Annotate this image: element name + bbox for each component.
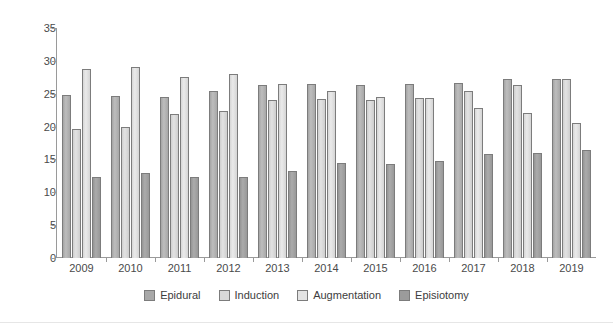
bar-set <box>160 28 199 258</box>
x-axis-labels: 2009201020112012201320142015201620172018… <box>57 262 596 274</box>
bar[interactable] <box>131 67 140 258</box>
bar[interactable] <box>533 153 542 258</box>
bar[interactable] <box>337 163 346 258</box>
bar-set <box>405 28 444 258</box>
bar[interactable] <box>454 83 463 258</box>
bar-set <box>454 28 493 258</box>
bar[interactable] <box>582 150 591 258</box>
bar-group <box>57 28 106 258</box>
bar-group <box>400 28 449 258</box>
x-axis-label: 2018 <box>498 262 547 274</box>
bar[interactable] <box>415 98 424 258</box>
bar[interactable] <box>425 98 434 258</box>
bar[interactable] <box>435 161 444 258</box>
legend-label: Induction <box>235 289 280 301</box>
y-axis-tick-mark <box>52 94 56 95</box>
bar[interactable] <box>229 74 238 258</box>
y-axis-tick-mark <box>52 159 56 160</box>
x-axis-label: 2015 <box>351 262 400 274</box>
x-axis-label: 2009 <box>57 262 106 274</box>
bar[interactable] <box>523 113 532 258</box>
bar-chart: 05101520253035 2009201020112012201320142… <box>0 0 613 333</box>
legend-label: Episiotomy <box>415 289 469 301</box>
bar[interactable] <box>209 91 218 258</box>
bar[interactable] <box>111 96 120 258</box>
x-axis-label: 2017 <box>449 262 498 274</box>
bar[interactable] <box>160 97 169 258</box>
bar[interactable] <box>219 111 228 258</box>
bar-set <box>258 28 297 258</box>
bar[interactable] <box>258 85 267 258</box>
bar-set <box>111 28 150 258</box>
x-axis-label: 2010 <box>106 262 155 274</box>
bar-group <box>449 28 498 258</box>
bar[interactable] <box>62 95 71 258</box>
bar-set <box>552 28 591 258</box>
bar[interactable] <box>180 77 189 258</box>
bar-group <box>253 28 302 258</box>
x-axis-label: 2014 <box>302 262 351 274</box>
bar[interactable] <box>239 177 248 258</box>
bar-group <box>204 28 253 258</box>
bar[interactable] <box>376 97 385 258</box>
bar[interactable] <box>121 127 130 258</box>
bar[interactable] <box>288 171 297 258</box>
y-axis-tick-mark <box>52 127 56 128</box>
bar[interactable] <box>464 91 473 258</box>
bar[interactable] <box>405 84 414 258</box>
bar-group <box>302 28 351 258</box>
bar[interactable] <box>82 69 91 258</box>
legend-item[interactable]: Epidural <box>144 289 200 301</box>
y-axis-tick-mark <box>52 192 56 193</box>
y-axis-tick-mark <box>52 28 56 29</box>
bar[interactable] <box>484 154 493 258</box>
y-axis-tick-mark <box>52 61 56 62</box>
bar[interactable] <box>141 173 150 258</box>
x-axis-label: 2013 <box>253 262 302 274</box>
bar[interactable] <box>317 99 326 258</box>
bar-group <box>498 28 547 258</box>
y-axis-tick-mark <box>52 225 56 226</box>
legend-item[interactable]: Augmentation <box>297 289 381 301</box>
bar[interactable] <box>268 100 277 258</box>
bar[interactable] <box>474 108 483 258</box>
x-axis-label: 2012 <box>204 262 253 274</box>
bar[interactable] <box>513 85 522 258</box>
bar[interactable] <box>190 177 199 258</box>
plot-area: 05101520253035 <box>56 28 596 258</box>
bar-group <box>351 28 400 258</box>
legend-swatch-icon <box>219 290 230 301</box>
bar[interactable] <box>278 84 287 258</box>
bar[interactable] <box>562 79 571 258</box>
bar-group <box>155 28 204 258</box>
bar-group <box>106 28 155 258</box>
legend-swatch-icon <box>144 290 155 301</box>
legend-label: Epidural <box>160 289 200 301</box>
bar-groups <box>57 28 596 258</box>
bar[interactable] <box>552 79 561 258</box>
y-axis-tick-mark <box>52 258 56 259</box>
bottom-divider <box>0 322 613 323</box>
bar[interactable] <box>366 100 375 258</box>
bar-set <box>503 28 542 258</box>
bar[interactable] <box>503 79 512 258</box>
bar[interactable] <box>72 129 81 258</box>
x-axis-label: 2019 <box>547 262 596 274</box>
legend-item[interactable]: Induction <box>219 289 280 301</box>
bar[interactable] <box>170 114 179 258</box>
bar[interactable] <box>386 164 395 258</box>
chart-legend: EpiduralInductionAugmentationEpisiotomy <box>0 289 613 301</box>
bar-set <box>62 28 101 258</box>
legend-label: Augmentation <box>313 289 381 301</box>
bar[interactable] <box>92 177 101 258</box>
bar-set <box>209 28 248 258</box>
legend-item[interactable]: Episiotomy <box>399 289 469 301</box>
x-axis-label: 2011 <box>155 262 204 274</box>
bar[interactable] <box>572 123 581 258</box>
bar-set <box>307 28 346 258</box>
bar[interactable] <box>356 85 365 258</box>
bar[interactable] <box>327 91 336 258</box>
bar-set <box>356 28 395 258</box>
legend-swatch-icon <box>399 290 410 301</box>
bar[interactable] <box>307 84 316 258</box>
